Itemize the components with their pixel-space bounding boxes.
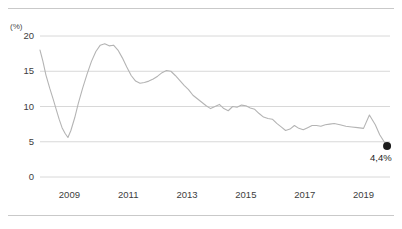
- endpoint-marker-dot: [383, 142, 391, 150]
- endpoint-value-label: 4,4%: [370, 152, 392, 163]
- chart-figure: (%) 051015202009201120132015201720194,4%: [0, 0, 402, 229]
- x-axis-tick-label: 2013: [164, 189, 210, 200]
- x-axis-tick-label: 2019: [341, 189, 387, 200]
- x-axis-tick-label: 2015: [223, 189, 269, 200]
- y-axis-tick-label: 5: [4, 136, 34, 147]
- y-axis-tick-label: 15: [4, 65, 34, 76]
- x-axis-tick-label: 2009: [46, 189, 92, 200]
- x-axis-tick-label: 2011: [105, 189, 151, 200]
- y-axis-tick-label: 20: [4, 30, 34, 41]
- y-axis-tick-label: 10: [4, 101, 34, 112]
- series-line: [40, 44, 387, 146]
- x-axis-tick-label: 2017: [282, 189, 328, 200]
- y-axis-tick-label: 0: [4, 171, 34, 182]
